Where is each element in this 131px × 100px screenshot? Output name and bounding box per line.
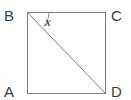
vertex-label-c: C bbox=[111, 8, 122, 23]
angle-label-x: x bbox=[45, 15, 51, 28]
geometry-figure: B C A D x bbox=[0, 0, 131, 100]
vertex-label-a: A bbox=[4, 84, 14, 99]
vertex-label-d: D bbox=[111, 84, 122, 99]
vertex-label-b: B bbox=[4, 8, 14, 23]
diagonal-line-bd bbox=[27, 12, 105, 93]
